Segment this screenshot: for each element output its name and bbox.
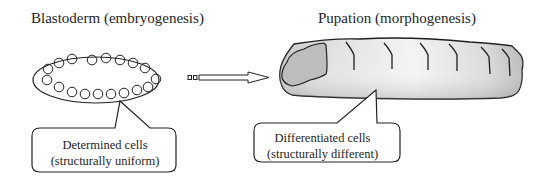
callout-differentiated-cells: Differentiated cells (structurally diffe… bbox=[255, 130, 390, 162]
callout-left-line1: Determined cells bbox=[30, 137, 180, 153]
blastoderm-embryo bbox=[33, 53, 161, 103]
transition-arrow bbox=[188, 72, 269, 83]
callout-right-line2: (structurally different) bbox=[255, 146, 390, 162]
cell-ring bbox=[42, 53, 161, 99]
callout-right-line1: Differentiated cells bbox=[255, 130, 390, 146]
callout-determined-cells: Determined cells (structurally uniform) bbox=[30, 137, 180, 169]
pupa-body bbox=[280, 38, 523, 99]
callout-left-line2: (structurally uniform) bbox=[30, 153, 180, 169]
